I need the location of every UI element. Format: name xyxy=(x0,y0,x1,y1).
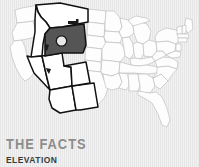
state-new-jersey xyxy=(176,44,181,51)
state-georgia xyxy=(138,74,155,93)
facts-subheading-elevation: ELEVATION xyxy=(6,155,119,165)
fact-panel: THE FACTS ELEVATION xyxy=(0,0,199,167)
state-indiana xyxy=(133,42,144,59)
state-florida xyxy=(138,91,170,127)
us-map-container xyxy=(0,0,199,142)
facts-block: THE FACTS ELEVATION xyxy=(6,137,126,165)
state-new-hampshire xyxy=(182,25,186,34)
us-map-svg xyxy=(0,0,199,142)
state-massachusetts xyxy=(177,34,189,38)
location-marker xyxy=(56,36,66,46)
state-missouri xyxy=(102,42,125,62)
state-south-dakota xyxy=(87,22,105,37)
montana-bar-mark-tail xyxy=(76,19,79,25)
state-minnesota xyxy=(105,11,122,32)
state-kentucky xyxy=(130,57,155,66)
facts-heading: THE FACTS xyxy=(6,137,116,152)
state-kansas xyxy=(85,47,102,62)
state-connecticut-rhode-island xyxy=(178,38,187,42)
state-north-dakota xyxy=(88,9,106,24)
state-washington xyxy=(15,5,37,23)
state-vermont xyxy=(177,26,182,34)
state-oregon xyxy=(12,21,36,41)
state-new-mexico xyxy=(72,83,98,110)
